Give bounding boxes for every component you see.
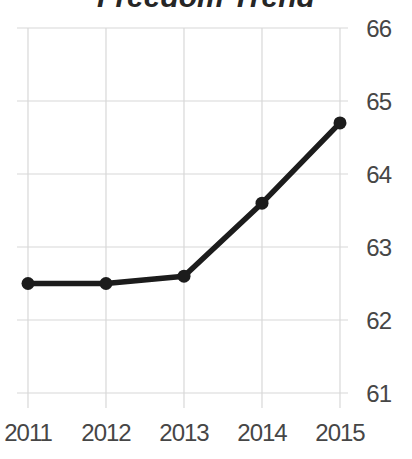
y-tick-label: 66 — [366, 15, 391, 42]
data-point — [22, 277, 35, 290]
y-tick-label: 62 — [366, 307, 391, 334]
data-point — [100, 277, 113, 290]
x-tick-label: 2012 — [81, 419, 131, 446]
y-tick-label: 65 — [366, 88, 391, 115]
y-tick-label: 64 — [366, 161, 391, 188]
data-point — [256, 197, 269, 210]
x-tick-label: 2015 — [315, 419, 365, 446]
y-tick-label: 61 — [366, 380, 391, 407]
x-tick-label: 2011 — [4, 419, 52, 446]
line-chart-canvas: 66656463626120112012201320142015 — [0, 0, 412, 459]
data-point — [178, 270, 191, 283]
data-point — [334, 116, 347, 129]
freedom-trend-chart: Freedom Trend 66656463626120112012201320… — [0, 0, 412, 459]
x-tick-label: 2014 — [237, 419, 287, 446]
y-tick-label: 63 — [366, 234, 391, 261]
x-tick-label: 2013 — [159, 419, 209, 446]
